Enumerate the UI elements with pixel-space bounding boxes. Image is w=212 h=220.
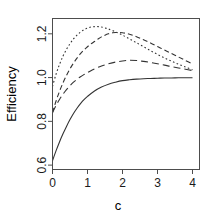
plot-panel-background: [53, 19, 200, 170]
y-tick-label-0: 0.6: [36, 156, 50, 173]
x-tick-label-3: 3: [154, 176, 161, 190]
y-axis-title: Efficiency: [4, 66, 19, 122]
y-axis-tick-labels: 0.60.81.01.2: [36, 25, 50, 173]
y-tick-label-1: 0.8: [36, 113, 50, 130]
x-tick-label-1: 1: [84, 176, 91, 190]
y-tick-label-3: 1.2: [36, 25, 50, 42]
x-tick-label-2: 2: [119, 176, 126, 190]
y-tick-label-2: 1.0: [36, 69, 50, 86]
efficiency-vs-c-line-chart: 01234 0.60.81.01.2 c Efficiency: [0, 0, 212, 220]
x-tick-label-4: 4: [189, 176, 196, 190]
x-tick-label-0: 0: [49, 176, 56, 190]
x-axis-tick-labels: 01234: [49, 176, 196, 190]
chart-container: 01234 0.60.81.01.2 c Efficiency: [0, 0, 212, 220]
x-axis-tick-marks: [53, 170, 193, 175]
y-axis-tick-marks: [48, 34, 53, 165]
x-axis-title: c: [115, 198, 122, 213]
